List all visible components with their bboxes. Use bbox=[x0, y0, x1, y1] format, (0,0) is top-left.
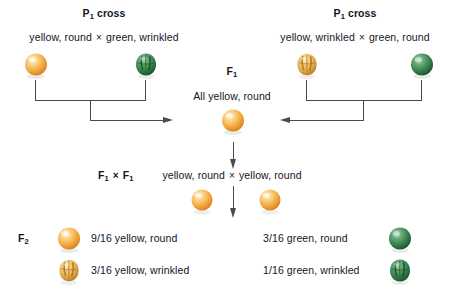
f2-row-1-ratio-text: 3/16 yellow, wrinkled bbox=[91, 265, 189, 276]
right-parent-a-label: yellow, wrinkled bbox=[280, 31, 355, 43]
right-p1-heading-subscript: 1 bbox=[341, 12, 345, 21]
f1-cross-multiply-symbol: × bbox=[112, 170, 120, 181]
right-to-f1-arrow-shaft bbox=[288, 120, 364, 121]
f1-gamete-a-label: yellow, round bbox=[162, 169, 225, 181]
pea-yellow-round-left-parent bbox=[23, 52, 49, 80]
left-p1-cross-heading: P1 cross bbox=[83, 8, 126, 19]
right-bracket-stem-a bbox=[306, 80, 307, 100]
left-to-f1-arrow-head bbox=[163, 115, 175, 126]
pea-yellow-round-f1 bbox=[220, 108, 246, 136]
pea-yellow-wrinkled-right-parent bbox=[294, 52, 320, 80]
pea-green-round-f2 bbox=[387, 226, 413, 254]
pea-yellow-wrinkled-f2 bbox=[56, 258, 82, 286]
left-bracket-stem-b bbox=[145, 80, 146, 100]
right-to-f1-arrow-head bbox=[280, 115, 292, 126]
left-bracket-stem-a bbox=[35, 80, 36, 100]
f1-label-letter: F bbox=[227, 65, 234, 77]
f2-label: F2 bbox=[18, 233, 29, 244]
left-to-f1-arrow-shaft bbox=[90, 120, 166, 121]
f1-cross-label-b-subscript: 1 bbox=[129, 174, 133, 183]
pea-green-wrinkled-left-parent bbox=[133, 52, 159, 80]
f1-gametes-multiply-symbol: × bbox=[228, 170, 236, 181]
right-p1-heading-suffix: cross bbox=[348, 7, 377, 19]
right-bracket-crossbar bbox=[306, 100, 422, 101]
pea-green-round-right-parent bbox=[409, 52, 435, 80]
f1cross-to-f2-arrow-head bbox=[228, 208, 239, 220]
right-cross-multiply-symbol: × bbox=[358, 32, 366, 43]
f2-label-subscript: 2 bbox=[25, 237, 29, 246]
f1-cross-label-a-letter: F bbox=[98, 169, 105, 181]
right-bracket-drop bbox=[363, 100, 364, 120]
f2-row-0-ratio-text: 9/16 yellow, round bbox=[91, 233, 177, 244]
pea-yellow-round-f1-gamete-a bbox=[189, 188, 215, 216]
right-bracket-stem-b bbox=[421, 80, 422, 100]
f1-result-text: All yellow, round bbox=[193, 91, 271, 102]
f2-row-3-ratio-text: 1/16 green, wrinkled bbox=[263, 265, 360, 276]
right-p1-parents-labels: yellow, wrinkled × green, round bbox=[280, 32, 429, 43]
pea-green-wrinkled-f2 bbox=[387, 258, 413, 286]
f1-gamete-b-label: yellow, round bbox=[239, 169, 302, 181]
right-p1-cross-heading: P1 cross bbox=[334, 8, 377, 19]
left-p1-heading-subscript: 1 bbox=[90, 12, 94, 21]
left-cross-multiply-symbol: × bbox=[95, 32, 103, 43]
left-parent-b-label: green, wrinkled bbox=[106, 31, 179, 43]
left-parent-a-label: yellow, round bbox=[29, 31, 92, 43]
f1-label: F1 bbox=[227, 66, 238, 77]
diagram-canvas: P1 cross yellow, round × green, wrinkled bbox=[0, 0, 457, 304]
f1-cross-label-a-subscript: 1 bbox=[105, 174, 109, 183]
f1-cross-label: F1 × F1 bbox=[98, 170, 134, 181]
pea-yellow-round-f2 bbox=[56, 226, 82, 254]
left-bracket-drop bbox=[90, 100, 91, 120]
f1-cross-gametes-labels: yellow, round × yellow, round bbox=[162, 170, 301, 181]
f2-row-2-ratio-text: 3/16 green, round bbox=[263, 233, 348, 244]
left-p1-heading-suffix: cross bbox=[97, 7, 126, 19]
f1-label-subscript: 1 bbox=[233, 70, 237, 79]
f2-label-letter: F bbox=[18, 232, 25, 244]
left-p1-parents-labels: yellow, round × green, wrinkled bbox=[29, 32, 178, 43]
pea-yellow-round-f1-gamete-b bbox=[257, 188, 283, 216]
right-parent-b-label: green, round bbox=[369, 31, 430, 43]
